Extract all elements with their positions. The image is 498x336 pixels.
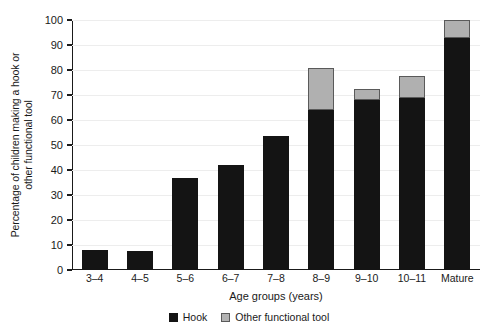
bar-segment-hook[interactable] (172, 178, 198, 271)
y-axis-tick: 20 (39, 214, 72, 226)
x-axis-tick-label: 6–7 (208, 272, 253, 284)
bar-segment-hook[interactable] (82, 250, 108, 270)
stacked-bar[interactable] (218, 165, 244, 270)
y-axis-tick: 80 (39, 64, 72, 76)
chart-legend: HookOther functional tool (0, 311, 498, 323)
y-axis-label: Percentage of children making a hook or … (0, 0, 44, 290)
bar-series-group (72, 20, 480, 270)
x-axis-tick-label: Mature (435, 272, 480, 284)
y-axis-tick: 70 (39, 89, 72, 101)
bar-slot (435, 20, 480, 270)
bar-slot (344, 20, 389, 270)
y-axis-tick-label: 90 (39, 39, 63, 51)
bar-segment-hook[interactable] (263, 136, 289, 270)
y-axis-tick: 40 (39, 164, 72, 176)
bar-segment-hook[interactable] (308, 110, 334, 270)
y-axis-tick-label: 60 (39, 114, 63, 126)
chart-figure: Percentage of children making a hook or … (0, 0, 498, 336)
bar-segment-hook[interactable] (354, 100, 380, 270)
stacked-bar[interactable] (82, 250, 108, 270)
x-axis-tick-label: 7–8 (253, 272, 298, 284)
bar-slot (389, 20, 434, 270)
y-axis-label-line-1: Percentage of children making a hook or (9, 53, 22, 238)
bar-segment-other-functional-tool[interactable] (444, 20, 470, 38)
bar-segment-other-functional-tool[interactable] (399, 76, 425, 97)
y-axis-tick: 100 (39, 14, 72, 26)
stacked-bar[interactable] (308, 68, 334, 271)
stacked-bar[interactable] (127, 251, 153, 270)
stacked-bar[interactable] (444, 20, 470, 270)
x-axis-tick-label: 9–10 (344, 272, 389, 284)
y-axis-tick-label: 80 (39, 64, 63, 76)
bar-segment-hook[interactable] (218, 165, 244, 270)
legend-item[interactable]: Hook (169, 311, 208, 323)
bar-segment-other-functional-tool[interactable] (354, 89, 380, 100)
bar-slot (299, 20, 344, 270)
x-axis-ticks: 3–44–55–66–77–88–99–1010–11Mature (72, 272, 480, 284)
y-axis-tick-label: 40 (39, 164, 63, 176)
y-axis-tick: 0 (39, 264, 72, 276)
legend-item[interactable]: Other functional tool (221, 311, 329, 323)
y-axis-tick: 60 (39, 114, 72, 126)
y-axis-tick-label: 20 (39, 214, 63, 226)
bar-slot (253, 20, 298, 270)
hook-swatch (169, 313, 178, 322)
y-axis-tick-label: 100 (39, 14, 63, 26)
y-axis-tick: 50 (39, 139, 72, 151)
plot-area: 0102030405060708090100 (72, 20, 480, 270)
y-axis-tick: 10 (39, 239, 72, 251)
legend-item-label: Hook (183, 311, 208, 323)
x-axis-tick-label: 10–11 (389, 272, 434, 284)
bar-slot (72, 20, 117, 270)
bar-segment-hook[interactable] (444, 38, 470, 271)
y-axis-tick-label: 70 (39, 89, 63, 101)
stacked-bar[interactable] (354, 89, 380, 270)
other-functional-tool-swatch (221, 313, 230, 322)
x-axis-tick-label: 4–5 (117, 272, 162, 284)
y-axis-tick: 30 (39, 189, 72, 201)
stacked-bar[interactable] (399, 76, 425, 270)
y-axis-label-line-2: other functional tool (22, 53, 35, 238)
y-axis-tick-label: 50 (39, 139, 63, 151)
stacked-bar[interactable] (172, 178, 198, 271)
y-axis-tick-label: 10 (39, 239, 63, 251)
legend-item-label: Other functional tool (235, 311, 329, 323)
x-axis-tick-label: 5–6 (163, 272, 208, 284)
x-axis-tick-label: 3–4 (72, 272, 117, 284)
bar-segment-hook[interactable] (127, 251, 153, 270)
stacked-bar[interactable] (263, 136, 289, 270)
bar-segment-hook[interactable] (399, 98, 425, 271)
bar-segment-other-functional-tool[interactable] (308, 68, 334, 111)
y-axis-tick-label: 0 (39, 264, 63, 276)
y-axis-tick-label: 30 (39, 189, 63, 201)
y-axis-tick: 90 (39, 39, 72, 51)
bar-slot (163, 20, 208, 270)
x-axis-label: Age groups (years) (72, 290, 480, 302)
x-axis-tick-label: 8–9 (299, 272, 344, 284)
bar-slot (208, 20, 253, 270)
bar-slot (117, 20, 162, 270)
